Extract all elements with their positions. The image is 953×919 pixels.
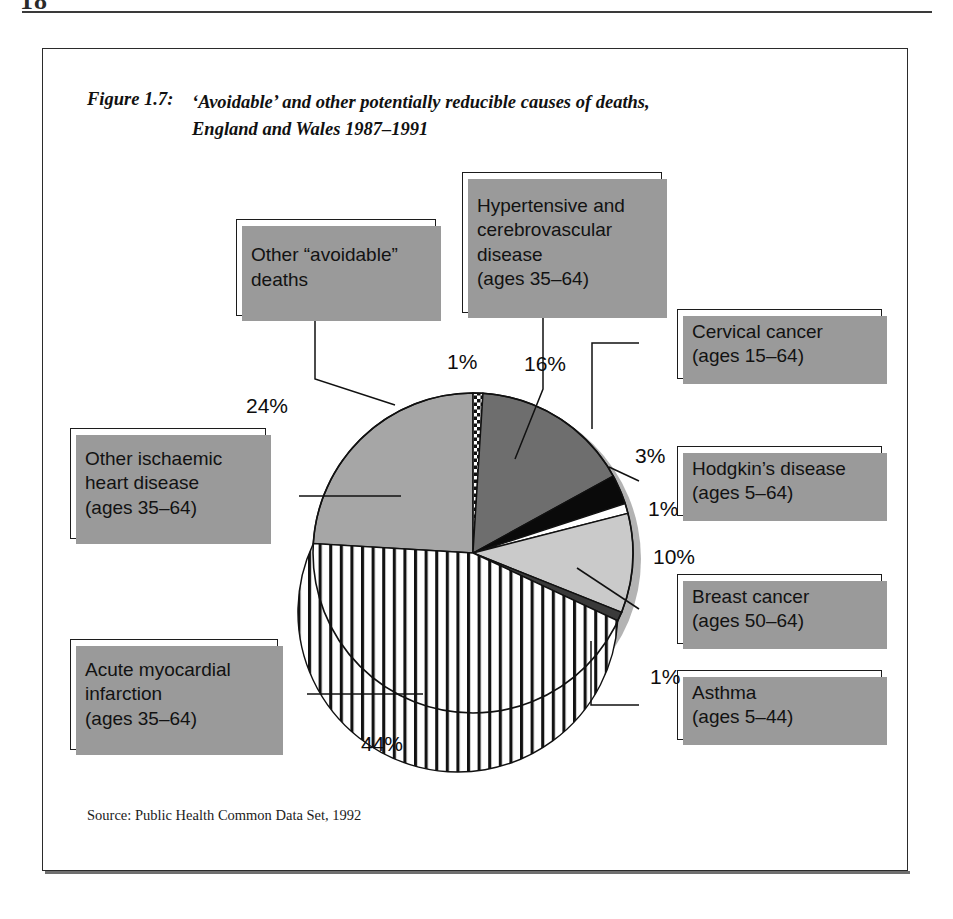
header-rule	[22, 11, 932, 13]
leader-cervical-cancer	[592, 343, 639, 429]
callout-line: (ages 35–64)	[85, 496, 251, 520]
callout-breast-cancer[interactable]: Breast cancer (ages 50–64)	[677, 574, 882, 644]
callout-other-avoidable-deaths[interactable]: Other “avoidable” deaths	[236, 219, 436, 316]
callout-hodgkins-disease[interactable]: Hodgkin’s disease (ages 5–64)	[677, 446, 882, 516]
pct-label-other-ischaemic: 24%	[246, 394, 288, 418]
callout-cervical-cancer[interactable]: Cervical cancer (ages 15–64)	[677, 309, 882, 379]
pct-label-acute-myocardial-infarction: 44%	[361, 732, 403, 756]
pct-label-hodgkins-disease: 1%	[648, 497, 678, 521]
callout-line: Hypertensive and	[477, 194, 647, 218]
callout-line: (ages 35–64)	[85, 707, 263, 731]
leader-other-avoidable-deaths	[315, 316, 395, 405]
callout-line: (ages 5–44)	[692, 705, 867, 729]
callout-asthma[interactable]: Asthma (ages 5–44)	[677, 670, 882, 740]
pct-label-cervical-cancer: 3%	[635, 444, 665, 468]
callout-line: (ages 35–64)	[477, 267, 647, 291]
pct-label-asthma: 1%	[650, 665, 680, 689]
callout-line: disease	[477, 243, 647, 267]
callout-line: (ages 5–64)	[692, 481, 867, 505]
callout-line: Hodgkin’s disease	[692, 457, 867, 481]
callout-line: heart disease	[85, 471, 251, 495]
pct-label-other-avoidable-deaths: 1%	[447, 350, 477, 374]
callout-line: Other ischaemic	[85, 447, 251, 471]
leader-hodgkins-disease	[609, 467, 639, 481]
callout-line: infarction	[85, 682, 263, 706]
callout-line: (ages 15–64)	[692, 344, 867, 368]
leader-hypertensive	[515, 313, 543, 459]
callout-other-ischaemic-heart-disease[interactable]: Other ischaemic heart disease (ages 35–6…	[70, 428, 266, 539]
pct-label-breast-cancer: 10%	[653, 545, 695, 569]
callout-line: cerebrovascular	[477, 218, 647, 242]
leader-breast-cancer	[577, 568, 639, 609]
page-number: 18	[20, 0, 48, 16]
callout-line: Breast cancer	[692, 585, 867, 609]
pct-label-hypertensive: 16%	[524, 352, 566, 376]
callout-hypertensive-cerebrovascular[interactable]: Hypertensive and cerebrovascular disease…	[462, 172, 662, 313]
leader-asthma	[591, 641, 639, 705]
figure-frame: Figure 1.7: ‘Avoidable’ and other potent…	[42, 48, 908, 871]
callout-line: deaths	[251, 268, 421, 292]
callout-line: (ages 50–64)	[692, 609, 867, 633]
callout-line: Cervical cancer	[692, 320, 867, 344]
callout-line: Asthma	[692, 681, 867, 705]
callout-line: Acute myocardial	[85, 658, 263, 682]
callout-line: Other “avoidable”	[251, 243, 421, 267]
callout-acute-myocardial-infarction[interactable]: Acute myocardial infarction (ages 35–64)	[70, 639, 278, 750]
